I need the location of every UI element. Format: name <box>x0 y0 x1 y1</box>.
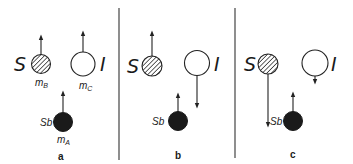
i-label: I <box>214 53 220 75</box>
sb-filled-sphere <box>284 112 303 131</box>
i-open-sphere <box>302 50 328 76</box>
panel-c: S I Sb c <box>244 50 337 160</box>
sb-filled-sphere <box>169 112 188 131</box>
sb-label: Sb <box>270 116 283 127</box>
sb-label: Sb <box>152 116 165 127</box>
s-hatched-sphere <box>142 56 162 76</box>
s-hatched-sphere <box>258 54 278 74</box>
s-label: S <box>244 53 256 75</box>
i-label: I <box>331 53 337 75</box>
i-label: I <box>100 53 106 75</box>
panel-a-label: a <box>58 151 64 162</box>
sb-filled-sphere <box>54 113 73 132</box>
s-label: S <box>127 55 139 77</box>
mb-label: mB <box>35 77 48 89</box>
i-open-sphere <box>185 51 210 76</box>
mc-label: mC <box>79 80 93 92</box>
ma-label: mA <box>57 134 70 146</box>
s-label: S <box>14 53 26 75</box>
s-hatched-sphere <box>32 55 51 74</box>
three-panel-momentum-diagram: S mB I mC Sb mA a S I Sb b <box>0 0 353 164</box>
sb-label: Sb <box>40 117 53 128</box>
panel-b-label: b <box>175 150 181 161</box>
i-open-sphere <box>71 52 95 76</box>
panel-c-label: c <box>290 149 296 160</box>
panel-a: S mB I mC Sb mA a <box>14 33 106 162</box>
panel-b: S I Sb b <box>127 33 220 161</box>
